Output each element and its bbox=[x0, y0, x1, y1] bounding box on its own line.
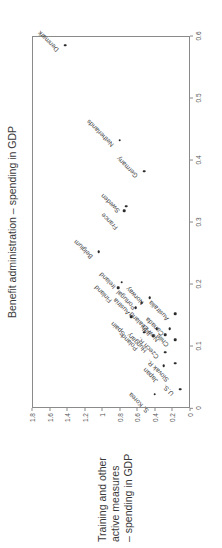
tick-mark bbox=[32, 408, 33, 411]
training-axis-tick: 0.4 bbox=[151, 408, 158, 422]
rotated-figure-container: Benefit administration – spending in GDP… bbox=[0, 0, 222, 548]
benefit-axis-title: Benefit administration – spending in GDP bbox=[6, 36, 18, 408]
tick-mark bbox=[190, 160, 193, 161]
training-axis-tick: 0 bbox=[187, 408, 194, 417]
training-axis-tick: 1.8 bbox=[29, 408, 36, 422]
tick-mark bbox=[190, 346, 193, 347]
data-point bbox=[174, 312, 177, 315]
benefit-axis-tick: 0.5 bbox=[190, 93, 202, 102]
benefit-axis-tick-label: 0 bbox=[195, 406, 202, 410]
benefit-axis-tick-label: 0.1 bbox=[195, 341, 202, 350]
tick-mark bbox=[172, 408, 173, 411]
training-axis-tick: 1.6 bbox=[46, 408, 53, 422]
benefit-axis-tick: 0.6 bbox=[190, 31, 202, 40]
training-axis-ticks: 00.20.40.60.811.21.41.61.8 bbox=[32, 408, 190, 444]
benefit-axis-tick-label: 0.3 bbox=[195, 217, 202, 226]
training-axis-tick: 1.2 bbox=[81, 408, 88, 422]
benefit-axis-ticks: 00.10.20.30.40.50.6 bbox=[190, 36, 216, 408]
tick-mark bbox=[190, 36, 193, 37]
data-point bbox=[143, 170, 146, 173]
data-point bbox=[164, 351, 167, 354]
data-point bbox=[169, 327, 172, 330]
training-axis-tick: 0.8 bbox=[116, 408, 123, 422]
tick-mark bbox=[190, 408, 191, 411]
tick-mark bbox=[137, 408, 138, 411]
training-axis-tick-label: 0.4 bbox=[151, 413, 158, 422]
training-axis-tick: 0.2 bbox=[169, 408, 176, 422]
data-point bbox=[174, 362, 177, 365]
tick-mark bbox=[190, 98, 193, 99]
tick-mark bbox=[154, 408, 155, 411]
training-axis-tick-label: 1 bbox=[99, 413, 106, 417]
benefit-axis-tick: 0.1 bbox=[190, 341, 202, 350]
training-axis-tick-label: 0.8 bbox=[116, 413, 123, 422]
training-axis-tick: 1 bbox=[99, 408, 106, 417]
data-point bbox=[118, 139, 121, 142]
data-point bbox=[162, 365, 165, 368]
training-axis-tick-label: 1.6 bbox=[46, 413, 53, 422]
benefit-axis-tick: 0.2 bbox=[190, 279, 202, 288]
benefit-axis-tick-label: 0.4 bbox=[195, 155, 202, 164]
data-point bbox=[174, 339, 177, 342]
data-point bbox=[97, 250, 100, 253]
benefit-axis-tick-label: 0.5 bbox=[195, 93, 202, 102]
training-axis-tick-label: 0.2 bbox=[169, 413, 176, 422]
training-axis-tick-label: 1.8 bbox=[29, 413, 36, 422]
training-axis-tick-label: 0.6 bbox=[134, 413, 141, 422]
tick-mark bbox=[49, 408, 50, 411]
benefit-axis-tick: 0.3 bbox=[190, 217, 202, 226]
tick-mark bbox=[102, 408, 103, 411]
training-axis-tick-label: 0 bbox=[187, 413, 194, 417]
benefit-axis-tick-label: 0.2 bbox=[195, 279, 202, 288]
training-axis-tick: 1.4 bbox=[64, 408, 71, 422]
data-point bbox=[154, 393, 157, 396]
benefit-axis-tick: 0.4 bbox=[190, 155, 202, 164]
tick-mark bbox=[190, 284, 193, 285]
training-axis-tick-label: 1.4 bbox=[64, 413, 71, 422]
tick-mark bbox=[119, 408, 120, 411]
scatter-plot-figure: Benefit administration – spending in GDP… bbox=[0, 0, 222, 548]
tick-mark bbox=[67, 408, 68, 411]
data-point bbox=[164, 334, 167, 337]
data-point bbox=[125, 205, 128, 208]
training-axis-tick-label: 1.2 bbox=[81, 413, 88, 422]
data-point bbox=[179, 388, 182, 391]
data-point bbox=[123, 210, 126, 213]
data-point bbox=[120, 281, 123, 284]
data-point bbox=[64, 44, 67, 47]
tick-mark bbox=[190, 222, 193, 223]
benefit-axis-tick-label: 0.6 bbox=[195, 31, 202, 40]
tick-mark bbox=[84, 408, 85, 411]
